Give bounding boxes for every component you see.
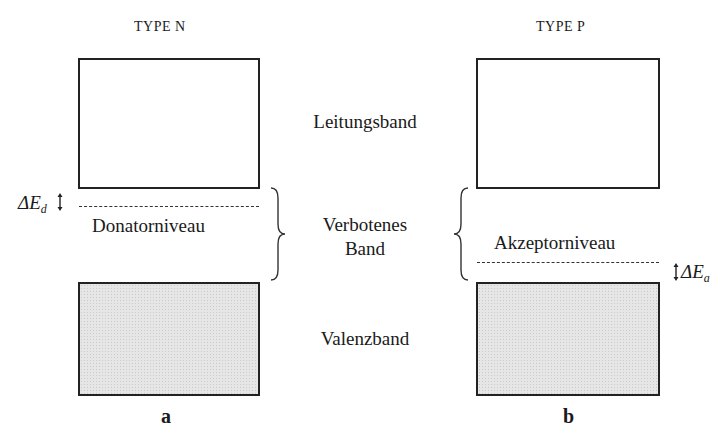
caption-b: b bbox=[563, 405, 574, 428]
delta-ea-label: ΔEa bbox=[681, 261, 710, 286]
acceptor-level-line bbox=[477, 262, 659, 263]
forbidden-band-label: Verbotenes Band bbox=[290, 213, 440, 261]
forbidden-band-line1: Verbotenes bbox=[290, 213, 440, 237]
double-arrow-icon bbox=[672, 263, 680, 281]
acceptor-level-label: Akzeptorniveau bbox=[494, 232, 615, 254]
double-arrow-icon bbox=[56, 193, 64, 211]
delta-symbol: ΔE bbox=[18, 192, 41, 213]
caption-a: a bbox=[161, 405, 171, 428]
forbidden-band-line2: Band bbox=[290, 237, 440, 261]
valence-band-box-p bbox=[476, 282, 660, 396]
type-p-title: TYPE P bbox=[536, 19, 585, 35]
delta-ed-label: ΔEd bbox=[18, 192, 47, 217]
delta-subscript: d bbox=[41, 202, 47, 216]
type-n-title: TYPE N bbox=[134, 19, 186, 35]
conduction-band-label: Leitungsband bbox=[290, 111, 440, 133]
donor-level-label: Donatorniveau bbox=[92, 215, 205, 237]
right-brace-icon bbox=[268, 186, 288, 282]
valence-band-label: Valenzband bbox=[290, 328, 440, 350]
conduction-band-box-p bbox=[476, 58, 660, 189]
donor-level-line bbox=[79, 206, 259, 207]
delta-subscript: a bbox=[704, 271, 710, 285]
valence-band-box-n bbox=[78, 282, 260, 396]
delta-symbol: ΔE bbox=[681, 261, 704, 282]
conduction-band-box-n bbox=[78, 58, 260, 189]
left-brace-icon bbox=[451, 186, 471, 282]
